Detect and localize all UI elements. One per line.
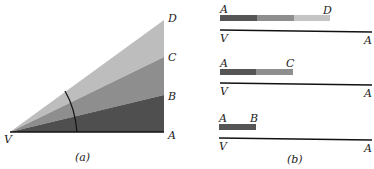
row2-v: V (220, 85, 229, 98)
panel-b: A D V A A C V A A B V A (b) (218, 3, 372, 166)
row2-end: C (286, 57, 295, 70)
row1-v: V (220, 32, 229, 45)
caption-b: (b) (287, 153, 303, 166)
caption-a: (a) (75, 151, 90, 164)
baseline-row1 (220, 30, 372, 32)
row2-start: A (219, 57, 228, 70)
row1-start: A (219, 3, 228, 16)
row3-end: B (249, 112, 258, 125)
label-a: A (167, 129, 176, 142)
baseline-row3 (219, 138, 372, 140)
seg-mid (257, 15, 294, 21)
row3-a: A (363, 142, 372, 155)
baseline-row2 (220, 83, 372, 85)
row3-v: V (219, 140, 228, 153)
figure: V A B C D (a) A D V A A C V A A B V A (b… (0, 0, 374, 169)
row1-a: A (363, 34, 372, 47)
row3-start: A (218, 112, 227, 125)
row1-end: D (322, 4, 332, 17)
row2-a: A (363, 87, 372, 100)
label-b: B (167, 90, 176, 103)
label-c: C (168, 51, 177, 64)
label-d: D (167, 12, 177, 25)
panel-a: V A B C D (a) (4, 12, 177, 164)
label-v: V (4, 133, 13, 146)
